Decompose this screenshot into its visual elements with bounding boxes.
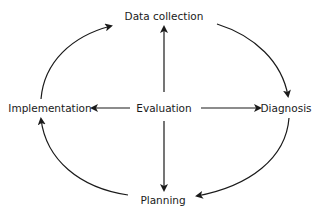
arrow-data-collection-to-diagnosis xyxy=(217,24,288,96)
node-diagnosis: Diagnosis xyxy=(260,102,311,114)
node-data-collection: Data collection xyxy=(125,10,204,22)
node-implementation: Implementation xyxy=(8,102,91,114)
arrow-implementation-to-data-collection xyxy=(41,26,111,99)
arrow-planning-to-implementation xyxy=(41,119,128,195)
arrow-diagnosis-to-planning xyxy=(197,118,289,196)
cycle-diagram: Data collection Diagnosis Planning Imple… xyxy=(0,0,322,213)
node-evaluation-center: Evaluation xyxy=(136,102,191,114)
node-planning: Planning xyxy=(140,194,185,206)
